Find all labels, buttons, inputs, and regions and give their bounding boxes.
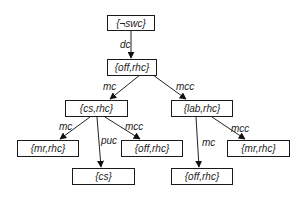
edge-label-mc-cs: mc xyxy=(59,122,72,132)
edge-label-dc: dc xyxy=(120,40,131,50)
node-off-rhc-bottom: {off,rhc} xyxy=(171,168,233,185)
edge-label-mcc-cs: mcc xyxy=(125,122,143,132)
edge-label-puc: puc xyxy=(101,136,117,146)
node-lab-rhc: {lab,rhc} xyxy=(171,100,233,117)
edge-label-mcc-top: mcc xyxy=(176,82,194,92)
edge-label-mc-lab: mc xyxy=(202,138,215,148)
edge-label-mcc-lab: mcc xyxy=(231,124,249,134)
node-mr-rhc-left: {mr,rhc} xyxy=(17,140,79,157)
state-transition-diagram: {¬swc} {off,rhc} {cs,rhc} {lab,rhc} {mr,… xyxy=(0,0,306,198)
edge-label-mc-top: mc xyxy=(103,82,116,92)
node-cs: {cs} xyxy=(72,168,135,185)
node-off-rhc-mid: {off,rhc} xyxy=(121,140,183,157)
node-mr-rhc-right: {mr,rhc} xyxy=(227,140,290,157)
node-off-rhc-top: {off,rhc} xyxy=(107,59,157,76)
node-cs-rhc: {cs,rhc} xyxy=(65,100,128,117)
edge-mc-lab xyxy=(196,117,199,167)
node-not-swc: {¬swc} xyxy=(107,15,155,31)
